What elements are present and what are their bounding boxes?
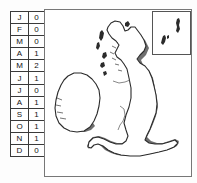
month-value: 1 (29, 120, 45, 132)
shetland-mainland-shape (176, 18, 180, 33)
table-row: J 0 (11, 84, 45, 96)
mull-island (100, 62, 105, 68)
islay-island (103, 71, 107, 76)
table-row: M 0 (11, 36, 45, 48)
month-value: 1 (29, 108, 45, 120)
ireland-shape (55, 73, 100, 132)
month-value: 1 (29, 132, 45, 144)
month-label: F (11, 24, 29, 36)
month-value: 1 (29, 72, 45, 84)
month-label: A (11, 48, 29, 60)
shetland-inset-box (152, 11, 191, 55)
shetland-southern-isles-shape (161, 35, 166, 45)
ireland-outline (55, 73, 100, 132)
month-label: M (11, 60, 29, 72)
month-label: N (11, 132, 29, 144)
month-label: J (11, 12, 29, 24)
month-value: 0 (29, 24, 45, 36)
month-label: S (11, 108, 29, 120)
month-value: 0 (29, 12, 45, 24)
month-table-body: J 0 F 0 M 0 A 1 M 2 J 1 (11, 12, 45, 157)
month-label: A (11, 96, 29, 108)
orkney-islands (125, 21, 130, 27)
table-row: N 1 (11, 132, 45, 144)
figure-root: J 0 F 0 M 0 A 1 M 2 J 1 (0, 0, 197, 183)
outer-hebrides (99, 30, 104, 41)
table-row: J 0 (11, 12, 45, 24)
month-value: 0 (29, 84, 45, 96)
shetland-inset-map (153, 12, 190, 54)
skye-island (102, 52, 107, 59)
wales-border-detail (118, 106, 125, 130)
month-value: 2 (29, 60, 45, 72)
table-row: O 1 (11, 120, 45, 132)
month-value: 1 (29, 96, 45, 108)
table-row: M 2 (11, 60, 45, 72)
month-frequency-table: J 0 F 0 M 0 A 1 M 2 J 1 (10, 11, 45, 157)
month-value: 0 (29, 36, 45, 48)
month-label: J (11, 72, 29, 84)
table-row: S 1 (11, 108, 45, 120)
table-row: F 0 (11, 24, 45, 36)
table-row: D 0 (11, 145, 45, 157)
month-label: M (11, 36, 29, 48)
table-row: A 1 (11, 48, 45, 60)
month-value: 1 (29, 48, 45, 60)
month-value: 0 (29, 145, 45, 157)
lewis-harris (96, 42, 100, 50)
month-label: D (11, 145, 29, 157)
month-label: J (11, 84, 29, 96)
month-label: O (11, 120, 29, 132)
england-scotland-border (113, 80, 130, 83)
table-row: J 1 (11, 72, 45, 84)
table-row: A 1 (11, 96, 45, 108)
shetland-small-islet (167, 35, 169, 39)
